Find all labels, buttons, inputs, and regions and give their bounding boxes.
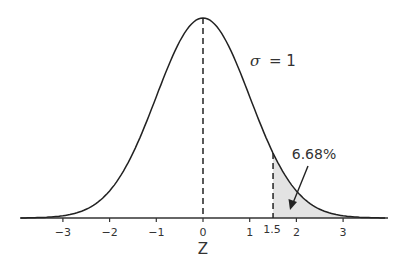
x-axis-ticks: −3−2−1011.523 [55,218,347,239]
x-tick-label: 3 [340,226,347,239]
percent-annotation: 6.68% [292,146,336,162]
x-axis-label: Z [198,240,208,258]
x-tick-label: 1.5 [263,223,281,236]
x-tick-label: −1 [148,226,164,239]
x-tick-label: 1 [246,226,253,239]
x-tick-label: 2 [293,226,300,239]
sigma-label: σ = 1 [250,52,296,70]
bell-curve [21,18,385,218]
x-tick-label: 0 [200,226,207,239]
x-tick-label: −3 [55,226,71,239]
x-tick-label: −2 [101,226,117,239]
normal-distribution-chart: −3−2−1011.523 σ = 1 6.68% Z [0,0,408,264]
